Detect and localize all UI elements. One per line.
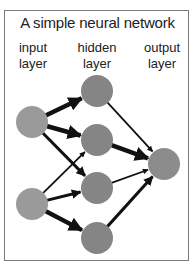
nodes: [16, 75, 180, 254]
edge-input-2-to-hidden-3: [46, 192, 81, 201]
network-graph: [0, 0, 195, 268]
node-hidden-1: [81, 75, 113, 107]
node-hidden-4: [81, 222, 113, 254]
edge-hidden-4-to-output-1: [106, 177, 152, 228]
node-output-1: [148, 148, 180, 180]
edge-hidden-3-to-output-1: [110, 170, 148, 184]
node-hidden-2: [81, 124, 113, 156]
node-hidden-3: [81, 172, 113, 204]
edges: [42, 98, 153, 230]
edge-input-2-to-hidden-2: [42, 152, 85, 194]
node-input-1: [16, 106, 48, 138]
edge-input-2-to-hidden-4: [44, 210, 82, 230]
edge-input-1-to-hidden-2: [45, 126, 80, 136]
edge-hidden-2-to-output-1: [110, 145, 148, 159]
node-input-2: [16, 188, 48, 220]
edge-input-1-to-hidden-1: [45, 98, 82, 116]
edge-input-1-to-hidden-3: [42, 132, 85, 176]
